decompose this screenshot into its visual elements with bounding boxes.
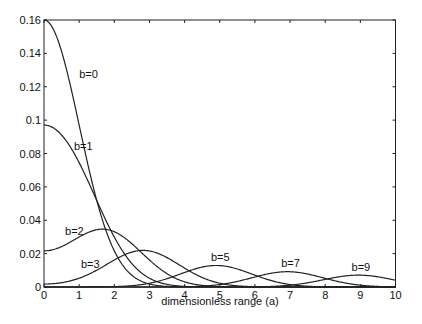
x-tick-label: 10 xyxy=(389,289,401,301)
x-tick-label: 8 xyxy=(322,289,328,301)
y-tick-label: 0 xyxy=(35,281,41,293)
curve-label: b=9 xyxy=(352,261,371,273)
x-tick-label: 9 xyxy=(357,289,363,301)
y-tick-label: 0.12 xyxy=(20,81,41,93)
y-tick-label: 0.08 xyxy=(20,148,41,160)
x-tick-label: 2 xyxy=(111,289,117,301)
curve-label: b=5 xyxy=(211,251,230,263)
chart: 012345678910 00.020.040.060.080.10.120.1… xyxy=(0,0,422,324)
x-tick-label: 7 xyxy=(287,289,293,301)
y-tick-label: 0.02 xyxy=(20,248,41,260)
y-tick-label: 0.1 xyxy=(26,114,41,126)
x-tick-label: 0 xyxy=(41,289,47,301)
y-tick-label: 0.04 xyxy=(20,214,41,226)
curve-label: b=0 xyxy=(79,68,98,80)
x-axis-label: dimensionless range (a) xyxy=(161,295,278,307)
x-tick-label: 3 xyxy=(146,289,152,301)
y-tick-label: 0.16 xyxy=(20,14,41,26)
plot-area xyxy=(44,20,396,287)
y-tick-label: 0.06 xyxy=(20,181,41,193)
curve-label: b=1 xyxy=(74,140,93,152)
curve-label: b=2 xyxy=(65,225,84,237)
y-tick-label: 0.14 xyxy=(20,47,41,59)
curve-label: b=7 xyxy=(281,257,300,269)
x-tick-label: 1 xyxy=(76,289,82,301)
curve-label: b=3 xyxy=(81,258,100,270)
